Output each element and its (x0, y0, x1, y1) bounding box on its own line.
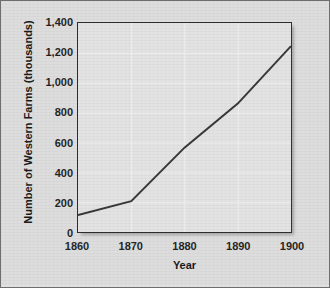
x-tick-label: 1880 (172, 241, 196, 252)
y-tick-label: 600 (55, 137, 73, 148)
chart-figure: 02004006008001,0001,2001,400 18601870188… (0, 0, 330, 288)
x-axis-title: Year (77, 259, 292, 271)
y-tick-label: 1,400 (45, 17, 73, 28)
x-tick-label: 1890 (226, 241, 250, 252)
y-tick-label: 1,000 (45, 77, 73, 88)
x-tick-label: 1900 (280, 241, 304, 252)
plot-area (77, 22, 292, 233)
plot-svg (78, 23, 291, 232)
y-axis-tick-labels: 02004006008001,0001,2001,400 (1, 22, 73, 233)
y-tick-label: 0 (67, 228, 73, 239)
gridlines (78, 23, 291, 232)
x-tick-label: 1860 (65, 241, 89, 252)
x-tick-label: 1870 (119, 241, 143, 252)
y-tick-label: 400 (55, 167, 73, 178)
x-axis-tick-labels: 18601870188018901900 (77, 241, 292, 257)
y-tick-label: 800 (55, 107, 73, 118)
y-tick-label: 1,200 (45, 47, 73, 58)
y-tick-label: 200 (55, 197, 73, 208)
y-axis-title: Number of Western Farms (thousands) (22, 12, 34, 232)
